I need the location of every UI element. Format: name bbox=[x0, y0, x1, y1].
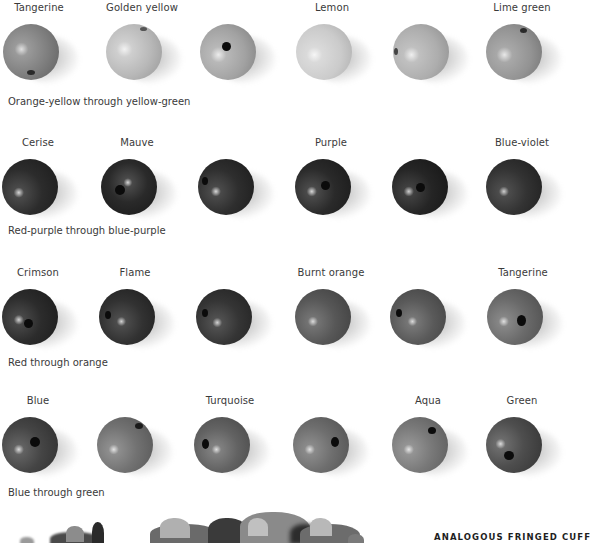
bead-image bbox=[2, 159, 58, 215]
bead-label: Turquoise bbox=[182, 395, 278, 406]
bead-image bbox=[200, 24, 256, 80]
bead-image bbox=[486, 417, 542, 473]
row-caption: Blue through green bbox=[8, 487, 105, 498]
bead-label: Tangerine bbox=[475, 267, 571, 278]
bead-label: Blue bbox=[0, 395, 86, 406]
bead-swatch: Purple bbox=[283, 137, 379, 237]
bead-swatch: Golden yellow bbox=[94, 2, 190, 102]
bead-image bbox=[3, 24, 59, 80]
bead-swatch: Green bbox=[474, 395, 570, 495]
fringed-cuff-image bbox=[0, 510, 420, 543]
bead-label: Mauve bbox=[89, 137, 185, 148]
bead-swatch: Burnt orange bbox=[283, 267, 379, 367]
bead-swatch: Crimson bbox=[0, 267, 86, 367]
bead-row-blue-green: Blue Turquoise Aqua Green Blue through g… bbox=[0, 395, 599, 505]
bead-label: Crimson bbox=[0, 267, 86, 278]
bead-swatch bbox=[188, 2, 284, 102]
bead-image bbox=[487, 289, 543, 345]
bead-image bbox=[101, 159, 157, 215]
bead-label: Aqua bbox=[380, 395, 476, 406]
bead-image bbox=[392, 417, 448, 473]
bead-image bbox=[198, 159, 254, 215]
bead-image bbox=[393, 24, 449, 80]
bead-row-red-orange: Crimson Flame Burnt orange Tangerine Red… bbox=[0, 267, 599, 377]
bead-image bbox=[196, 289, 252, 345]
bead-label: Flame bbox=[87, 267, 183, 278]
bead-label: Lemon bbox=[284, 2, 380, 13]
bead-swatch: Tangerine bbox=[0, 2, 87, 102]
bead-swatch bbox=[281, 395, 377, 495]
bead-label: Lime green bbox=[474, 2, 570, 13]
bead-label: Golden yellow bbox=[94, 2, 190, 13]
row-caption: Orange-yellow through yellow-green bbox=[8, 96, 190, 107]
bead-image bbox=[486, 159, 542, 215]
bead-swatch: Turquoise bbox=[182, 395, 278, 495]
bead-swatch bbox=[184, 267, 280, 367]
bead-image bbox=[295, 159, 351, 215]
bead-row-orange-yellow: Tangerine Golden yellow Lemon Lime green… bbox=[0, 2, 599, 112]
bead-swatch: Cerise bbox=[0, 137, 86, 237]
bead-image bbox=[296, 24, 352, 80]
bead-image bbox=[2, 417, 58, 473]
bead-image bbox=[486, 24, 542, 80]
book-page: Tangerine Golden yellow Lemon Lime green… bbox=[0, 0, 599, 543]
row-caption: Red through orange bbox=[8, 357, 108, 368]
bead-swatch: Aqua bbox=[380, 395, 476, 495]
bead-image bbox=[97, 417, 153, 473]
bead-swatch: Lime green bbox=[474, 2, 570, 102]
bead-swatch: Tangerine bbox=[475, 267, 571, 367]
bead-image bbox=[99, 289, 155, 345]
bead-label: Purple bbox=[283, 137, 379, 148]
bead-swatch bbox=[85, 395, 181, 495]
section-heading: ANALOGOUS FRINGED CUFF bbox=[434, 532, 591, 542]
bead-image bbox=[295, 289, 351, 345]
row-caption: Red-purple through blue-purple bbox=[8, 225, 166, 236]
bead-swatch bbox=[186, 137, 282, 237]
bead-image bbox=[390, 289, 446, 345]
bead-label: Green bbox=[474, 395, 570, 406]
bead-image bbox=[392, 159, 448, 215]
bead-swatch: Lemon bbox=[284, 2, 380, 102]
bead-image bbox=[194, 417, 250, 473]
bead-swatch: Blue bbox=[0, 395, 86, 495]
bead-swatch: Flame bbox=[87, 267, 183, 367]
bead-row-red-purple: Cerise Mauve Purple Blue-violet Red-purp… bbox=[0, 137, 599, 247]
bead-image bbox=[2, 289, 58, 345]
bead-swatch bbox=[378, 267, 474, 367]
bead-label: Cerise bbox=[0, 137, 86, 148]
bead-swatch: Mauve bbox=[89, 137, 185, 237]
bead-swatch bbox=[380, 137, 476, 237]
bead-image bbox=[293, 417, 349, 473]
bead-label: Blue-violet bbox=[474, 137, 570, 148]
bead-swatch: Blue-violet bbox=[474, 137, 570, 237]
bead-image bbox=[106, 24, 162, 80]
bead-label: Tangerine bbox=[0, 2, 87, 13]
bead-swatch bbox=[381, 2, 477, 102]
bead-label: Burnt orange bbox=[283, 267, 379, 278]
